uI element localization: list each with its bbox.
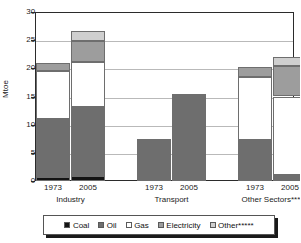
- legend-item[interactable]: Coal: [64, 221, 89, 230]
- bar-segment-other[interactable]: [273, 57, 300, 66]
- x-tick-label-year: 1973: [235, 183, 275, 192]
- x-group-label: Industry: [16, 195, 126, 204]
- x-tick-label-year: 1973: [134, 183, 174, 192]
- x-tick-label-year: 2005: [169, 183, 209, 192]
- legend-item[interactable]: Gas: [126, 221, 149, 230]
- legend-label: Gas: [134, 221, 149, 230]
- bar[interactable]: [238, 12, 272, 181]
- x-tick-label-year: 2005: [270, 183, 300, 192]
- legend-label: Coal: [73, 221, 89, 230]
- bar-segment-coal[interactable]: [36, 177, 70, 181]
- y-axis: Mtoe 051015202530: [0, 0, 35, 200]
- bar[interactable]: [273, 12, 300, 181]
- legend: CoalOilGasElectricityOther*****: [43, 215, 275, 235]
- stacked-bar-chart: Mtoe 051015202530 1973200519732005197320…: [0, 0, 300, 243]
- bar[interactable]: [36, 12, 70, 181]
- bar-segment-coal[interactable]: [71, 176, 105, 181]
- bar[interactable]: [172, 12, 206, 181]
- legend-item[interactable]: Other*****: [210, 221, 254, 230]
- bar-segment-oil[interactable]: [172, 94, 206, 181]
- legend-label: Other*****: [218, 221, 254, 230]
- y-tick-mark: [31, 181, 35, 182]
- bar[interactable]: [71, 12, 105, 181]
- bar-segment-electricity[interactable]: [238, 67, 272, 77]
- bar[interactable]: [137, 12, 171, 181]
- legend-item[interactable]: Electricity: [158, 221, 201, 230]
- legend-swatch-icon: [64, 222, 70, 228]
- legend-item[interactable]: Oil: [98, 221, 116, 230]
- x-group-label: Transport: [117, 195, 227, 204]
- bar-segment-other[interactable]: [71, 31, 105, 42]
- bar-segment-electricity[interactable]: [273, 66, 300, 97]
- bar-segment-electricity[interactable]: [36, 63, 70, 71]
- bar-segment-electricity[interactable]: [71, 41, 105, 61]
- bar-segment-gas[interactable]: [238, 77, 272, 140]
- legend-swatch-icon: [158, 222, 164, 228]
- legend-swatch-icon: [126, 222, 132, 228]
- x-tick-label-year: 2005: [68, 183, 108, 192]
- bar-segment-gas[interactable]: [71, 62, 105, 108]
- x-group-label: Other Sectors****: [218, 195, 301, 204]
- legend-label: Oil: [107, 221, 117, 230]
- legend-swatch-icon: [98, 222, 104, 228]
- bar-segment-gas[interactable]: [273, 97, 300, 175]
- bar-segment-oil[interactable]: [137, 139, 171, 181]
- bar-segment-oil[interactable]: [36, 119, 70, 177]
- bar-segment-gas[interactable]: [36, 71, 70, 119]
- legend-swatch-icon: [210, 222, 216, 228]
- bar-segment-coal[interactable]: [238, 179, 272, 181]
- bar-segment-oil[interactable]: [273, 175, 300, 181]
- bars-layer: [35, 12, 294, 181]
- x-axis: 197320051973200519732005IndustryTranspor…: [0, 183, 300, 213]
- bar-segment-oil[interactable]: [71, 107, 105, 176]
- bar-segment-oil[interactable]: [238, 140, 272, 179]
- x-tick-label-year: 1973: [33, 183, 73, 192]
- legend-label: Electricity: [166, 221, 200, 230]
